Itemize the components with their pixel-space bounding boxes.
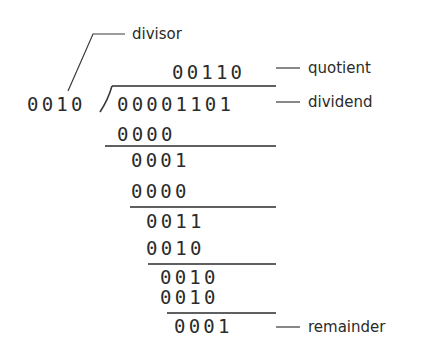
- step-subtrahend: 0010: [146, 237, 205, 259]
- step-subtrahend: 0000: [117, 123, 176, 145]
- dividend-label: dividend: [308, 93, 373, 111]
- step-result: 0011: [146, 210, 205, 232]
- remainder: 0001: [174, 315, 233, 337]
- divisor-label: divisor: [132, 25, 183, 43]
- divisor-leader-line: [68, 34, 125, 91]
- diagram-canvas: divisor 00110 quotient 0010 00001101 div…: [0, 0, 432, 356]
- step-subtrahend: 0000: [131, 180, 190, 202]
- step-subtrahend: 0010: [160, 286, 219, 308]
- long-division-diagram: divisor 00110 quotient 0010 00001101 div…: [0, 0, 432, 356]
- quotient: 00110: [172, 61, 245, 83]
- division-bracket-curve: [100, 86, 112, 112]
- quotient-label: quotient: [308, 59, 371, 77]
- divisor: 0010: [27, 93, 86, 115]
- remainder-label: remainder: [308, 318, 386, 336]
- division-steps: 00000001000000110010001000100001: [105, 123, 276, 337]
- step-result: 0001: [131, 149, 190, 171]
- step-result: 0010: [160, 266, 219, 288]
- dividend: 00001101: [117, 93, 234, 115]
